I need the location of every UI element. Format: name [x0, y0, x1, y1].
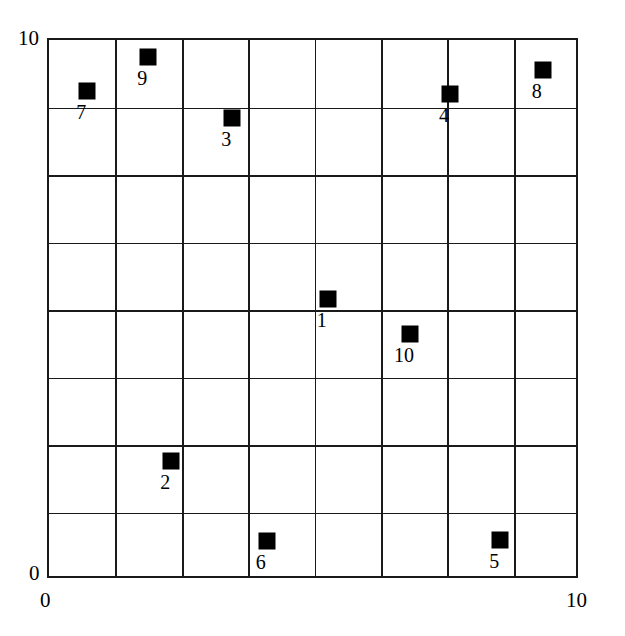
gridline-vertical	[315, 40, 317, 576]
x-axis-min-tick-label: 0	[40, 590, 51, 611]
data-point-marker[interactable]	[492, 531, 509, 548]
data-point-marker[interactable]	[163, 453, 180, 470]
gridline-horizontal	[49, 445, 576, 447]
data-point-label: 5	[489, 551, 499, 571]
gridline-horizontal	[49, 310, 576, 312]
plot-area: 12345678910	[47, 38, 578, 578]
data-point-label: 6	[256, 552, 266, 572]
gridline-vertical	[182, 40, 184, 576]
data-point-label: 8	[532, 81, 542, 101]
y-axis-min-tick-label: 0	[29, 563, 40, 584]
data-point-label: 10	[394, 345, 414, 365]
data-point-label: 3	[221, 129, 231, 149]
data-point-marker[interactable]	[534, 61, 551, 78]
data-point-marker[interactable]	[79, 83, 96, 100]
gridline-horizontal	[49, 108, 576, 110]
gridline-horizontal	[49, 175, 576, 177]
gridline-vertical	[381, 40, 383, 576]
x-axis-max-tick-label: 10	[566, 590, 587, 611]
gridline-horizontal	[49, 378, 576, 380]
data-point-label: 2	[160, 472, 170, 492]
gridline-horizontal	[49, 513, 576, 515]
data-point-marker[interactable]	[402, 326, 419, 343]
data-point-marker[interactable]	[441, 86, 458, 103]
y-axis-max-tick-label: 10	[18, 28, 39, 49]
scatter-plot-figure: 10 0 0 10 12345678910	[0, 0, 625, 636]
data-point-label: 9	[137, 68, 147, 88]
data-point-marker[interactable]	[224, 110, 241, 127]
data-point-marker[interactable]	[319, 291, 336, 308]
gridline-vertical	[514, 40, 516, 576]
gridline-vertical	[115, 40, 117, 576]
data-point-label: 4	[439, 105, 449, 125]
data-point-marker[interactable]	[258, 532, 275, 549]
data-point-marker[interactable]	[140, 49, 157, 66]
data-point-label: 7	[76, 102, 86, 122]
gridline-horizontal	[49, 243, 576, 245]
gridline-vertical	[248, 40, 250, 576]
data-point-label: 1	[317, 310, 327, 330]
